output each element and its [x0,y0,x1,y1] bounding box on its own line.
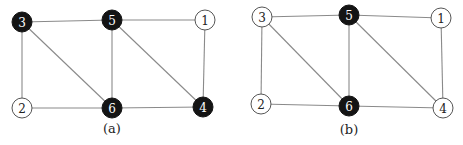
node-6: 6 [339,96,359,116]
node-label: 4 [199,101,207,115]
node-3: 3 [12,12,32,32]
edge-5-4 [112,20,203,107]
node-2: 2 [12,98,32,118]
edge-3-2 [261,17,262,104]
node-3: 3 [252,7,272,27]
figure-a-nodes: 351264 [12,10,215,118]
node-label: 6 [345,100,353,114]
node-1: 1 [431,8,451,28]
figure-b: 351264 (b) [251,5,453,137]
figure-a-caption: (a) [103,121,121,136]
edge-2-6 [261,104,349,106]
edge-1-4 [441,18,443,108]
figure-b-caption: (b) [340,122,358,137]
figure-b-edges [261,15,443,108]
node-label: 4 [439,102,447,116]
edge-1-4 [203,20,205,107]
node-2: 2 [251,94,271,114]
node-4: 4 [193,97,213,117]
node-4: 4 [433,98,453,118]
edge-3-5 [22,20,112,22]
edge-5-4 [349,15,443,108]
node-label: 6 [108,102,116,116]
edge-6-4 [112,107,203,108]
edge-5-1 [349,15,441,18]
node-label: 3 [18,16,26,30]
node-label: 3 [258,11,266,25]
node-label: 5 [345,9,353,23]
node-label: 1 [437,12,445,26]
node-label: 2 [257,98,265,112]
node-label: 2 [18,102,26,116]
figure-a: 351264 (a) [12,10,215,136]
edge-3-6 [262,17,349,106]
graph-diagram: 351264 (a) 351264 (b) [0,0,463,145]
node-1: 1 [195,10,215,30]
node-label: 1 [201,14,209,28]
node-5: 5 [102,10,122,30]
node-label: 5 [108,14,116,28]
node-6: 6 [102,98,122,118]
edge-3-6 [22,22,112,108]
figure-b-nodes: 351264 [251,5,453,118]
node-5: 5 [339,5,359,25]
edge-6-4 [349,106,443,108]
edge-3-5 [262,15,349,17]
figure-a-edges [22,20,205,108]
